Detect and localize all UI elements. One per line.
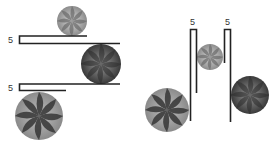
small-candy-top: [57, 6, 87, 36]
large-candy-left: [145, 88, 189, 132]
vertical-gap-bracket-left: 5: [190, 17, 197, 121]
horizontal-gap-bracket-bottom: 5: [8, 83, 120, 93]
gap-label: 5: [8, 35, 13, 45]
gap-label: 5: [225, 17, 230, 27]
diagram-canvas: 5 5 5 5: [0, 0, 270, 143]
small-candy-center: [197, 44, 223, 70]
right-panel: 5 5: [145, 17, 269, 132]
gap-label: 5: [190, 17, 195, 27]
gap-label: 5: [8, 83, 13, 93]
medium-candy-middle: [81, 44, 121, 84]
vertical-gap-bracket-right: 5: [225, 17, 231, 122]
large-candy-bottom: [15, 92, 63, 140]
medium-candy-right: [231, 76, 269, 114]
left-panel: 5 5: [8, 6, 121, 140]
horizontal-gap-bracket-top: 5: [8, 35, 120, 45]
